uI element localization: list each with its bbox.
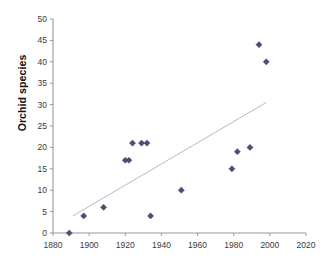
x-tick-label: 1920	[116, 240, 135, 250]
y-tick-label: 30	[38, 100, 48, 110]
y-tick-label: 45	[38, 35, 48, 45]
data-point-marker	[81, 213, 87, 219]
trend-line	[73, 102, 266, 215]
y-tick-label: 15	[38, 164, 48, 174]
scatter-chart: Orchid species 05101520253035404550 1880…	[0, 0, 336, 261]
data-points	[66, 42, 269, 237]
data-point-marker	[234, 149, 240, 155]
data-point-marker	[101, 204, 107, 210]
y-tick-label: 40	[38, 57, 48, 67]
x-tick-label: 1960	[188, 240, 207, 250]
y-tick-label: 25	[38, 121, 48, 131]
x-tick-label: 1880	[44, 240, 63, 250]
y-tick-label: 50	[38, 14, 48, 24]
data-point-marker	[144, 140, 150, 146]
y-tick-label: 0	[42, 228, 47, 238]
x-tick-label: 1980	[224, 240, 243, 250]
data-point-marker	[129, 140, 135, 146]
y-tick-label: 10	[38, 185, 48, 195]
x-tick-label: 1940	[152, 240, 171, 250]
x-tick-label: 2000	[260, 240, 279, 250]
x-axis-ticks: 18801900192019401960198020002020	[44, 233, 316, 250]
x-tick-label: 2020	[297, 240, 316, 250]
y-axis-ticks: 05101520253035404550	[38, 14, 53, 238]
plot-area: 05101520253035404550 1880190019201940196…	[0, 0, 336, 261]
data-point-marker	[247, 144, 253, 150]
data-point-marker	[178, 187, 184, 193]
x-tick-label: 1900	[80, 240, 99, 250]
y-tick-label: 35	[38, 78, 48, 88]
data-point-marker	[263, 59, 269, 65]
data-point-marker	[256, 42, 262, 48]
y-tick-label: 5	[42, 207, 47, 217]
data-point-marker	[66, 230, 72, 236]
data-point-marker	[126, 157, 132, 163]
data-point-marker	[229, 166, 235, 172]
y-tick-label: 20	[38, 142, 48, 152]
data-point-marker	[147, 213, 153, 219]
